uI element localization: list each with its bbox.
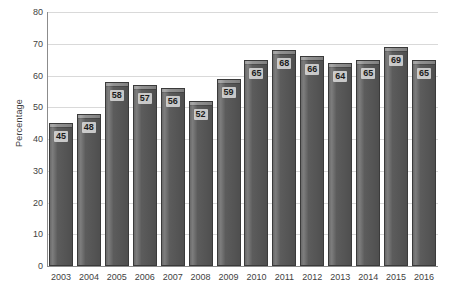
bar[interactable]: 56 <box>161 88 185 266</box>
x-tick-label-2008: 2008 <box>191 272 211 282</box>
y-axis-tick-labels: 80706050403020100 <box>17 12 43 266</box>
x-tick-label-2012: 2012 <box>302 272 322 282</box>
bar[interactable]: 52 <box>189 101 213 266</box>
bar[interactable]: 69 <box>384 47 408 266</box>
bar[interactable]: 59 <box>217 79 241 266</box>
x-tick-label-2016: 2016 <box>414 272 434 282</box>
bar-sheen <box>134 86 156 265</box>
bar-slot: 69 <box>382 12 410 266</box>
bar[interactable]: 68 <box>272 50 296 266</box>
y-tick-label-10: 10 <box>21 229 43 239</box>
x-tick-label-2010: 2010 <box>246 272 266 282</box>
bar[interactable]: 64 <box>328 63 352 266</box>
bar-slot: 65 <box>354 12 382 266</box>
bar-value-label: 59 <box>222 87 236 98</box>
bar-value-label: 64 <box>333 71 347 82</box>
bar[interactable]: 65 <box>412 60 436 266</box>
y-tick-label-40: 40 <box>21 134 43 144</box>
bar-sheen <box>413 61 435 265</box>
bar-sheen <box>106 83 128 265</box>
bar-slot: 64 <box>326 12 354 266</box>
y-tick-label-60: 60 <box>21 71 43 81</box>
bar[interactable]: 66 <box>300 56 324 266</box>
bar-slot: 52 <box>187 12 215 266</box>
bar-value-label: 57 <box>138 93 152 104</box>
bar-slot: 65 <box>243 12 271 266</box>
y-tick-label-50: 50 <box>21 102 43 112</box>
bar-sheen <box>245 61 267 265</box>
bar[interactable]: 57 <box>133 85 157 266</box>
x-tick-label-2006: 2006 <box>135 272 155 282</box>
bar-slot: 59 <box>215 12 243 266</box>
bar-sheen <box>329 64 351 265</box>
bar-sheen <box>385 48 407 265</box>
x-tick-label-2005: 2005 <box>107 272 127 282</box>
bar-slot: 65 <box>410 12 438 266</box>
y-tick-label-0: 0 <box>21 261 43 271</box>
bar-slot: 48 <box>75 12 103 266</box>
y-tick-label-70: 70 <box>21 39 43 49</box>
bar-sheen <box>218 80 240 265</box>
bar-sheen <box>50 124 72 265</box>
bar-value-label: 65 <box>249 68 263 79</box>
x-axis-line <box>47 266 438 267</box>
x-tick-label-2015: 2015 <box>386 272 406 282</box>
x-tick-label-2003: 2003 <box>51 272 71 282</box>
x-tick-label-2009: 2009 <box>219 272 239 282</box>
x-tick-label-2011: 2011 <box>275 272 294 282</box>
bar[interactable]: 58 <box>105 82 129 266</box>
bar-sheen <box>273 51 295 265</box>
bar-value-label: 69 <box>389 55 403 66</box>
x-axis-tick-labels: 2003200420052006200720082009201020112012… <box>47 272 438 288</box>
bar-value-label: 66 <box>305 64 319 75</box>
bar-sheen <box>162 89 184 265</box>
bar-value-label: 65 <box>361 68 375 79</box>
x-tick-label-2014: 2014 <box>358 272 378 282</box>
bar-slot: 57 <box>131 12 159 266</box>
y-tick-label-20: 20 <box>21 198 43 208</box>
bar-sheen <box>357 61 379 265</box>
bar[interactable]: 65 <box>356 60 380 266</box>
bar-value-label: 45 <box>54 131 68 142</box>
bar-slot: 68 <box>270 12 298 266</box>
bar-value-label: 48 <box>82 122 96 133</box>
bar-slot: 58 <box>103 12 131 266</box>
y-tick-label-30: 30 <box>21 166 43 176</box>
bar-slot: 66 <box>298 12 326 266</box>
bar-value-label: 52 <box>194 109 208 120</box>
bar-value-label: 68 <box>277 58 291 69</box>
bar-value-label: 65 <box>417 68 431 79</box>
bar-slot: 56 <box>159 12 187 266</box>
bar[interactable]: 45 <box>49 123 73 266</box>
bar[interactable]: 48 <box>77 114 101 266</box>
bars-layer: 4548585756525965686664656965 <box>47 12 438 266</box>
bar-sheen <box>190 102 212 265</box>
bar-sheen <box>301 57 323 265</box>
bar-chart: Percentage 80706050403020100 45485857565… <box>0 0 451 300</box>
bar-value-label: 58 <box>110 90 124 101</box>
x-tick-label-2013: 2013 <box>330 272 350 282</box>
bar-sheen <box>78 115 100 265</box>
bar-slot: 45 <box>47 12 75 266</box>
bar[interactable]: 65 <box>244 60 268 266</box>
x-tick-label-2007: 2007 <box>163 272 183 282</box>
x-tick-label-2004: 2004 <box>79 272 99 282</box>
y-tick-label-80: 80 <box>21 7 43 17</box>
bar-value-label: 56 <box>166 96 180 107</box>
